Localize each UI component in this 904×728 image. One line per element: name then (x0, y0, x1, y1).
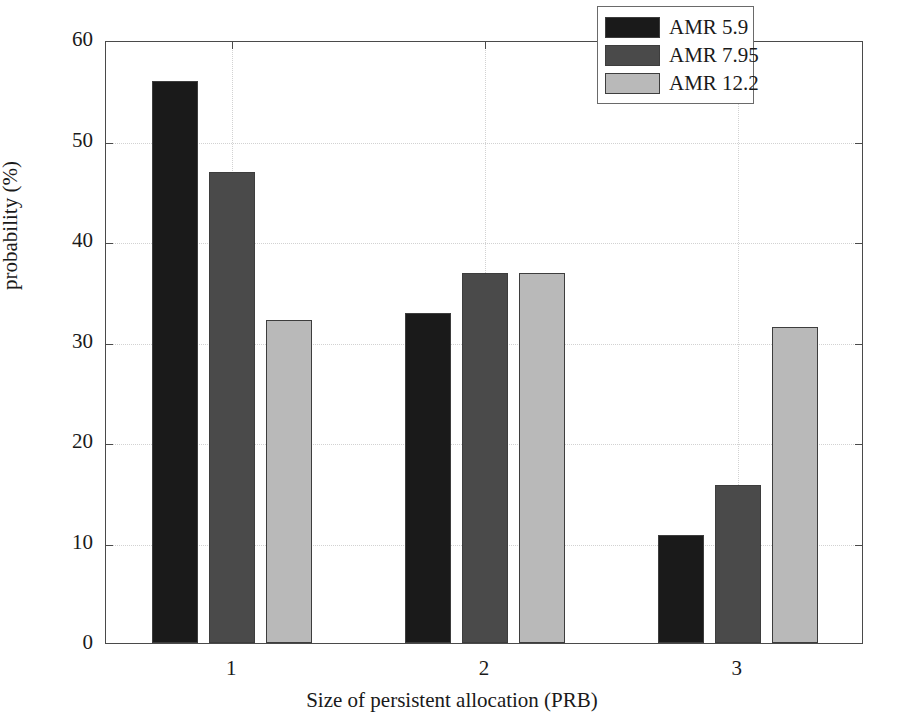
y-tick-label: 60 (3, 27, 93, 52)
y-tick-label: 50 (3, 128, 93, 153)
y-axis-tick (855, 444, 862, 445)
legend-label: AMR 12.2 (669, 71, 759, 96)
y-axis-tick (106, 143, 113, 144)
y-tick-label: 30 (3, 329, 93, 354)
legend-label: AMR 5.9 (669, 15, 748, 40)
x-axis-title: Size of persistent allocation (PRB) (0, 688, 904, 713)
y-axis-tick (855, 344, 862, 345)
legend: AMR 5.9AMR 7.95AMR 12.2 (597, 6, 754, 104)
y-tick-label: 20 (3, 429, 93, 454)
x-axis-tick (232, 42, 233, 49)
legend-item: AMR 12.2 (605, 69, 745, 97)
y-tick-label: 0 (3, 630, 93, 655)
bar (152, 81, 198, 643)
bar (715, 485, 761, 643)
legend-swatch (605, 45, 660, 66)
bar (405, 313, 451, 643)
legend-swatch (605, 17, 660, 38)
legend-label: AMR 7.95 (669, 43, 759, 68)
bar (462, 273, 508, 643)
y-axis-tick (106, 243, 113, 244)
bar (209, 172, 255, 643)
x-tick-label: 3 (707, 656, 767, 681)
y-axis-tick (106, 344, 113, 345)
y-axis-tick (855, 545, 862, 546)
x-tick-label: 2 (454, 656, 514, 681)
gridline-horizontal (106, 143, 862, 144)
bar (519, 273, 565, 643)
y-axis-tick (855, 243, 862, 244)
bar (658, 535, 704, 643)
y-tick-label: 40 (3, 228, 93, 253)
y-axis-title: probability (%) (0, 161, 23, 290)
bar (772, 327, 818, 643)
x-tick-label: 1 (201, 656, 261, 681)
y-axis-tick (106, 444, 113, 445)
bar-chart-figure: probability (%) 0102030405060 123 Size o… (0, 0, 904, 728)
bar (266, 320, 312, 643)
legend-item: AMR 5.9 (605, 13, 745, 41)
legend-item: AMR 7.95 (605, 41, 745, 69)
y-axis-tick (855, 143, 862, 144)
y-axis-tick (106, 545, 113, 546)
x-axis-tick (485, 42, 486, 49)
plot-area (105, 41, 863, 644)
legend-swatch (605, 73, 660, 94)
y-tick-label: 10 (3, 530, 93, 555)
